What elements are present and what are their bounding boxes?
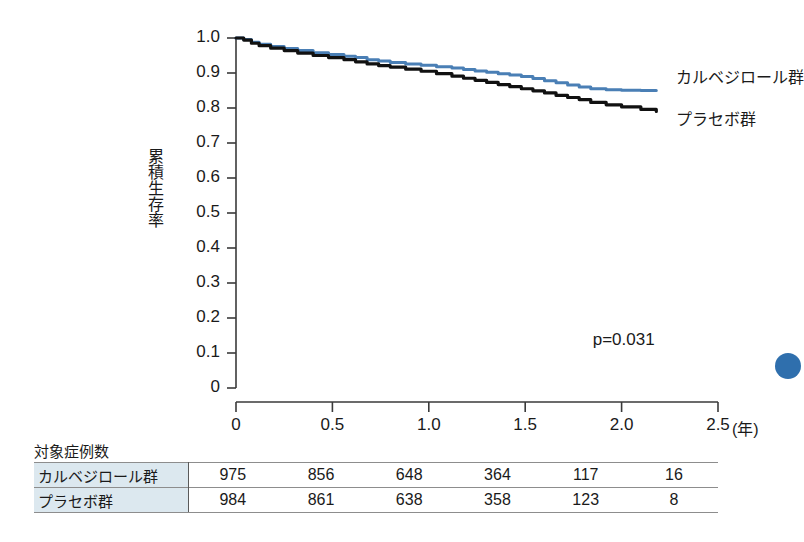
y-axis-title: 累積生存率 — [140, 148, 164, 228]
y-tick-label: 0.2 — [164, 307, 220, 327]
curve-carvedilol — [236, 38, 656, 91]
risk-table: カルベジロール群97585664836411716プラセボ群9848616383… — [34, 462, 718, 513]
risk-row-value: 16 — [630, 463, 718, 488]
x-tick-label: 1.0 — [399, 415, 459, 435]
risk-row-value: 638 — [365, 488, 453, 513]
x-axis-unit-label: (年) — [732, 416, 759, 440]
y-tick-label: 0.8 — [164, 97, 220, 117]
table-row: プラセボ群9848616383581238 — [34, 488, 718, 513]
risk-row-label: プラセボ群 — [34, 488, 188, 513]
table-row: カルベジロール群97585664836411716 — [34, 463, 718, 488]
x-tick-label: 0.5 — [302, 415, 362, 435]
risk-row-value: 117 — [542, 463, 630, 488]
survival-curves — [236, 38, 656, 112]
y-tick-label: 0.4 — [164, 237, 220, 257]
x-tick-label: 1.5 — [495, 415, 555, 435]
axes — [227, 38, 718, 412]
y-tick-label: 0 — [164, 377, 220, 397]
risk-row-value: 8 — [630, 488, 718, 513]
risk-row-label: カルベジロール群 — [34, 463, 188, 488]
y-tick-label: 0.1 — [164, 342, 220, 362]
risk-row-value: 861 — [277, 488, 365, 513]
x-tick-label: 2.0 — [592, 415, 652, 435]
curve-label-placebo: プラセボ群 — [676, 106, 756, 130]
risk-row-value: 648 — [365, 463, 453, 488]
risk-row-value: 358 — [453, 488, 541, 513]
y-tick-label: 0.7 — [164, 132, 220, 152]
y-tick-label: 1.0 — [164, 27, 220, 47]
risk-table-caption: 対象症例数 — [34, 440, 109, 461]
x-tick-label: 0 — [206, 415, 266, 435]
y-tick-label: 0.5 — [164, 202, 220, 222]
risk-row-value: 975 — [188, 463, 277, 488]
y-tick-label: 0.6 — [164, 167, 220, 187]
page-edge-dot-artifact — [775, 353, 801, 379]
risk-row-value: 856 — [277, 463, 365, 488]
curve-label-carvedilol: カルベジロール群 — [676, 64, 804, 88]
risk-row-value: 984 — [188, 488, 277, 513]
y-tick-label: 0.3 — [164, 272, 220, 292]
p-value-annotation: p=0.031 — [593, 330, 655, 350]
risk-row-value: 123 — [542, 488, 630, 513]
risk-row-value: 364 — [453, 463, 541, 488]
y-tick-label: 0.9 — [164, 62, 220, 82]
